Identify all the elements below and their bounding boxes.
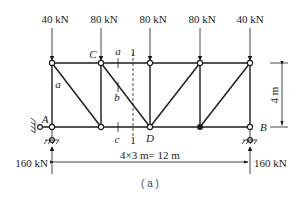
reaction-label-left: 160 kN [15,157,48,169]
node-label-a: A [41,113,49,125]
node-top-5 [247,60,252,65]
height-dimension-label: 4 m [268,86,280,103]
left-pin-support-icon [44,130,59,144]
member-label-a-top: a [115,45,121,57]
diagonal-2 [101,63,150,127]
node-top-4 [197,60,202,65]
right-pin-support-icon [242,130,257,144]
section-label-top: 1 [130,46,136,58]
diagonal-3 [150,63,200,127]
member-label-c: c [115,133,120,145]
node-top-3 [147,60,152,65]
member-label-b: b [114,91,120,103]
load-arrows [52,28,250,60]
node-bottom-2 [98,124,103,129]
node-label-b: B [260,121,267,133]
span-dimension-label: 4×3 m= 12 m [120,149,180,161]
reaction-label-right: 160 kN [254,157,287,169]
node-b [247,124,252,129]
diagonal-1 [52,63,101,127]
node-label-d: D [145,132,154,144]
truss-diagram: 40 kN 80 kN 80 kN 80 kN 40 kN 1 1 a a b … [0,0,296,209]
node-a [49,124,54,129]
member-label-a-diag: a [55,78,61,90]
node-label-c: C [89,48,97,60]
node-top-1 [49,60,54,65]
load-label-3: 80 kN [139,13,166,25]
diagonal-4 [200,63,250,127]
section-label-bottom: 1 [130,134,136,146]
node-bottom-4 [198,125,203,130]
load-label-1: 40 kN [41,13,68,25]
figure-caption: ( a ) [141,178,159,189]
truss-members [40,63,250,127]
truss-nodes [49,60,252,129]
load-label-2: 80 kN [90,13,117,25]
load-label-5: 40 kN [236,13,263,25]
load-label-4: 80 kN [188,13,215,25]
node-top-2 [98,60,103,65]
node-d [147,124,152,129]
